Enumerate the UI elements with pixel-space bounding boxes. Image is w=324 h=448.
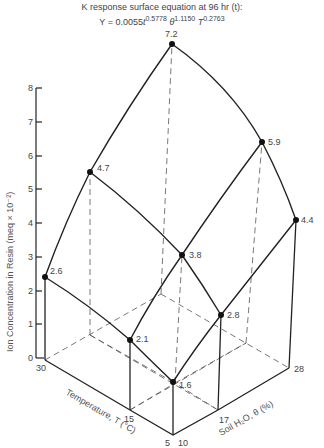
point-5-9 xyxy=(259,139,265,145)
moisture-tick-10: 10 xyxy=(178,438,188,448)
point-7-2 xyxy=(169,41,175,47)
surface-plot: 0 1 2 3 4 5 6 7 8 Ion Concentration in R… xyxy=(0,0,324,448)
svg-text:6: 6 xyxy=(28,151,33,161)
point-4-7 xyxy=(87,169,93,175)
label-4-7: 4.7 xyxy=(97,163,110,173)
svg-text:3: 3 xyxy=(28,252,33,262)
svg-text:4: 4 xyxy=(28,218,33,228)
point-1-6 xyxy=(170,379,176,385)
point-labels: 2.6 2.1 1.6 4.7 3.8 2.8 7.2 5.9 4.4 xyxy=(50,29,314,390)
svg-text:7: 7 xyxy=(28,117,33,127)
point-3-8 xyxy=(179,252,185,258)
label-2-6: 2.6 xyxy=(50,266,63,276)
label-3-8: 3.8 xyxy=(189,250,202,260)
z-axis xyxy=(36,88,44,358)
point-2-6 xyxy=(42,274,48,280)
label-5-9: 5.9 xyxy=(268,137,281,147)
z-tick-labels: 0 1 2 3 4 5 6 7 8 xyxy=(28,83,33,363)
label-2-1: 2.1 xyxy=(136,334,149,344)
svg-text:8: 8 xyxy=(28,83,33,93)
point-2-8 xyxy=(218,312,224,318)
label-2-8: 2.8 xyxy=(227,310,240,320)
temperature-axis-title: Temperature, T (°C) xyxy=(64,387,138,435)
temp-tick-30: 30 xyxy=(36,363,46,373)
svg-text:0: 0 xyxy=(28,353,33,363)
point-4-4 xyxy=(293,217,299,223)
label-4-4: 4.4 xyxy=(301,215,314,225)
z-axis-title: Ion Concentration in Resin (meq × 10⁻²) xyxy=(5,192,15,352)
svg-text:2: 2 xyxy=(28,286,33,296)
point-2-1 xyxy=(127,337,133,343)
temp-tick-5: 5 xyxy=(165,438,170,448)
label-1-6: 1.6 xyxy=(179,380,192,390)
svg-text:5: 5 xyxy=(28,184,33,194)
moisture-tick-28: 28 xyxy=(294,364,304,374)
svg-text:1: 1 xyxy=(28,319,33,329)
label-7-2: 7.2 xyxy=(165,29,178,39)
dashed-grid xyxy=(45,44,289,410)
surface-mesh xyxy=(45,44,296,382)
data-points xyxy=(42,41,299,385)
